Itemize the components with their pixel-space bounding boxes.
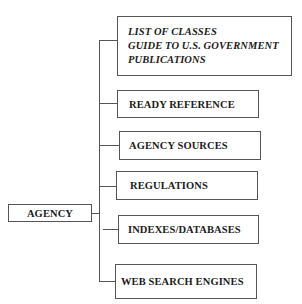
branch-connector-4 <box>99 186 116 187</box>
trunk-line <box>99 40 100 282</box>
indexes-databases-node: INDEXES/DATABASES <box>118 215 259 244</box>
regulations-label: REGULATIONS <box>130 180 208 191</box>
root-connector <box>91 213 100 214</box>
agency-node: AGENCY <box>8 204 92 222</box>
branch-connector-3 <box>99 145 119 146</box>
branch-connector-1 <box>99 40 117 41</box>
list-of-classes-line-2: GUIDE TO U.S. GOVERNMENT <box>128 39 279 53</box>
list-of-classes-line-1: LIST OF CLASSES <box>128 25 217 39</box>
web-search-engines-label: WEB SEARCH ENGINES <box>121 276 244 287</box>
ready-reference-node: READY REFERENCE <box>117 90 259 118</box>
list-of-classes-line-3: PUBLICATIONS <box>128 53 206 67</box>
branch-connector-5 <box>103 229 118 230</box>
regulations-node: REGULATIONS <box>116 171 258 200</box>
branch-connector-2 <box>99 103 117 104</box>
agency-sources-label: AGENCY SOURCES <box>129 140 228 151</box>
agency-sources-node: AGENCY SOURCES <box>119 131 261 160</box>
list-of-classes-node: LIST OF CLASSES GUIDE TO U.S. GOVERNMENT… <box>117 16 292 76</box>
ready-reference-label: READY REFERENCE <box>129 99 235 110</box>
branch-connector-6 <box>99 281 115 282</box>
web-search-engines-node: WEB SEARCH ENGINES <box>115 264 257 299</box>
indexes-databases-label: INDEXES/DATABASES <box>128 224 241 235</box>
agency-label: AGENCY <box>27 208 73 219</box>
